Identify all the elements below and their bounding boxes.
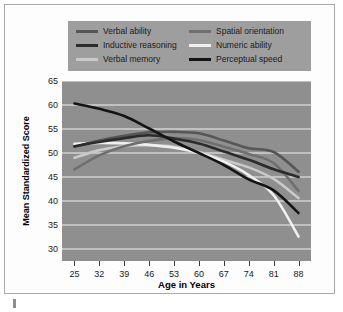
series-line [74,135,298,177]
legend-item[interactable]: Verbal ability [76,24,189,38]
plot-wrapper: 303540455055606525323946536067748188 [62,81,311,261]
y-tick-label: 45 [48,172,58,182]
chart-legend: Verbal abilitySpatial orientationInducti… [68,21,311,71]
legend-label: Verbal ability [103,26,151,36]
x-tick-mark [174,261,175,266]
series-line [74,143,298,237]
y-tick-label: 30 [48,244,58,254]
x-tick-label: 88 [294,269,304,279]
y-tick-label: 55 [48,124,58,134]
y-tick-label: 65 [48,76,58,86]
x-tick-label: 25 [69,269,79,279]
legend-item[interactable]: Numeric ability [189,38,307,52]
legend-label: Inductive reasoning [103,40,177,50]
legend-swatch-icon [76,44,98,47]
legend-label: Numeric ability [216,40,272,50]
y-axis-label: Mean Standardized Score [19,81,33,261]
y-tick-label: 35 [48,220,58,230]
x-axis-label: Age in Years [62,279,311,290]
legend-swatch-icon [76,58,98,61]
x-tick-mark [274,261,275,266]
x-tick-label: 39 [119,269,129,279]
y-tick-label: 60 [48,100,58,110]
legend-swatch-icon [189,30,211,33]
x-tick-label: 46 [144,269,154,279]
legend-swatch-icon [189,58,211,61]
x-tick-mark [124,261,125,266]
x-tick-mark [99,261,100,266]
x-tick-label: 32 [94,269,104,279]
legend-swatch-icon [76,30,98,33]
x-tick-label: 53 [169,269,179,279]
x-tick-label: 60 [194,269,204,279]
legend-item[interactable]: Inductive reasoning [76,38,189,52]
legend-label: Spatial orientation [216,26,284,36]
legend-swatch-icon [189,44,211,47]
gridlines [62,81,311,249]
legend-item[interactable]: Perceptual speed [189,52,307,66]
x-tick-label: 74 [244,269,254,279]
y-tick-label: 40 [48,196,58,206]
x-tick-label: 81 [269,269,279,279]
x-tick-mark [74,261,75,266]
x-tick-mark [149,261,150,266]
figure-panel: Verbal abilitySpatial orientationInducti… [4,4,335,294]
legend-item[interactable]: Verbal memory [76,52,189,66]
x-tick-mark [224,261,225,266]
legend-item[interactable]: Spatial orientation [189,24,307,38]
series-lines [74,104,298,237]
plot-svg [62,81,311,261]
legend-label: Verbal memory [103,54,160,64]
legend-label: Perceptual speed [216,54,282,64]
x-tick-label: 67 [219,269,229,279]
y-tick-label: 50 [48,148,58,158]
x-tick-mark [249,261,250,266]
cursor-caret [13,299,16,308]
x-tick-mark [199,261,200,266]
x-tick-mark [299,261,300,266]
